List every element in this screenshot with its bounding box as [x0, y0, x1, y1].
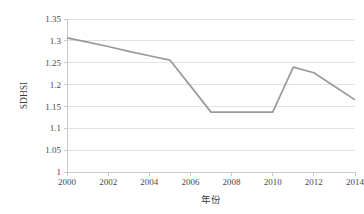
x-tick-label-2002: 2002 — [99, 177, 117, 187]
x-tick-label-2010: 2010 — [264, 177, 283, 187]
y-tick-label-1_05: 1.05 — [45, 145, 61, 155]
y-tick-label-1_2: 1.2 — [50, 80, 61, 90]
data-series-sdhsi — [67, 38, 355, 112]
x-tick-label-2014: 2014 — [346, 177, 364, 187]
y-axis-title: SDHSI — [19, 82, 29, 109]
x-tick-label-2012: 2012 — [305, 177, 323, 187]
line-chart: 11.051.11.151.21.251.31.3520002002200420… — [0, 0, 364, 214]
chart-canvas: 11.051.11.151.21.251.31.3520002002200420… — [0, 0, 364, 214]
x-tick-label-2000: 2000 — [58, 177, 77, 187]
y-tick-label-1_1: 1.1 — [50, 123, 61, 133]
x-tick-label-2004: 2004 — [140, 177, 159, 187]
y-tick-label-1_25: 1.25 — [45, 58, 61, 68]
y-tick-label-1_15: 1.15 — [45, 102, 61, 112]
y-tick-label-1_3: 1.3 — [50, 36, 62, 46]
y-tick-label-1_35: 1.35 — [45, 14, 61, 24]
x-tick-label-2008: 2008 — [223, 177, 242, 187]
y-tick-label-1: 1 — [57, 167, 62, 177]
x-tick-label-2006: 2006 — [181, 177, 200, 187]
x-axis-title: 年份 — [201, 194, 221, 205]
